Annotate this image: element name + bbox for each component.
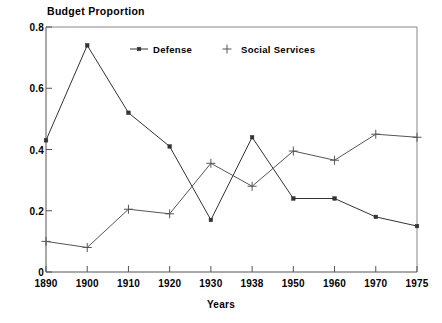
series-line: [46, 45, 417, 226]
data-point-marker: [85, 44, 89, 48]
line-chart: Budget Proportion 00.20.40.60.8 18901900…: [0, 0, 442, 323]
data-point-marker: [209, 218, 213, 222]
x-axis-tick-label: 1910: [117, 278, 140, 289]
x-axis-title: Years: [0, 299, 442, 310]
data-point-marker: [374, 215, 378, 219]
data-point-marker: [127, 111, 131, 115]
data-point-marker: [333, 197, 337, 201]
data-point-marker: [413, 133, 422, 142]
data-point-marker: [371, 130, 380, 139]
data-point-marker: [292, 197, 296, 201]
data-point-marker: [415, 224, 419, 228]
x-axis-tick-label: 1950: [282, 278, 305, 289]
legend-square-icon: [137, 47, 141, 51]
x-axis-tick-label: 1970: [364, 278, 387, 289]
legend-marker-2: [223, 45, 232, 54]
plot-area: [0, 0, 442, 323]
series-defense: [44, 44, 419, 228]
data-point-marker: [330, 156, 339, 165]
legend-plus-icon: [223, 45, 232, 54]
x-axis-tick-label: 1975: [405, 278, 428, 289]
x-axis-tick-label: 1938: [241, 278, 264, 289]
data-point-marker: [168, 145, 172, 149]
x-axis-tick-label: 1960: [323, 278, 346, 289]
x-axis-tick-label: 1920: [158, 278, 181, 289]
x-axis-tick-label: 1900: [76, 278, 99, 289]
legend-label: Social Services: [241, 44, 315, 55]
series-line: [46, 134, 417, 247]
legend-marker-1: [130, 47, 148, 51]
series-social-services: [42, 130, 422, 252]
data-point-marker: [250, 135, 254, 139]
x-axis-tick-label: 1930: [199, 278, 222, 289]
data-point-marker: [42, 237, 51, 246]
legend-label: Defense: [153, 44, 192, 55]
data-point-marker: [44, 139, 48, 143]
x-axis-tick-label: 1890: [34, 278, 57, 289]
